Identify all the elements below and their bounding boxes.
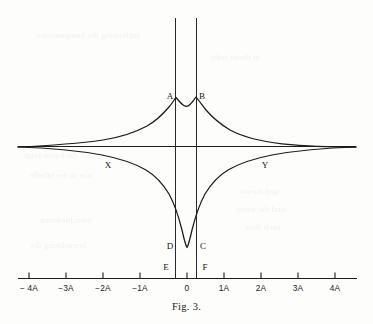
tick-label-3A: 3A bbox=[293, 283, 304, 293]
tick-label-0: 0 bbox=[185, 283, 190, 293]
lower-curve bbox=[18, 147, 356, 248]
tick-label-2A: 2A bbox=[256, 283, 267, 293]
point-label-Y: Y bbox=[262, 160, 269, 170]
point-label-A: A bbox=[167, 91, 174, 101]
tick-label--2A: −2A bbox=[95, 283, 111, 293]
upper-curve bbox=[18, 97, 356, 147]
tick-label-1A: 1A bbox=[219, 283, 230, 293]
point-label-D: D bbox=[167, 241, 174, 251]
tick-label--3A: −3A bbox=[58, 283, 74, 293]
tick-label-4A: 4A bbox=[330, 283, 341, 293]
figure-caption: Fig. 3. bbox=[0, 301, 373, 312]
point-label-E: E bbox=[163, 262, 169, 272]
figure-3: entfernung der komponenten in dieser nah… bbox=[0, 0, 373, 324]
x-axis-ticks bbox=[29, 273, 335, 279]
tick-label--1A: −1A bbox=[132, 283, 148, 293]
point-label-B: B bbox=[199, 91, 205, 101]
point-label-X: X bbox=[105, 160, 112, 170]
curve-point-labels: A B C D E F X Y bbox=[105, 91, 269, 272]
point-label-C: C bbox=[200, 241, 206, 251]
x-axis-tick-labels: − 4A −3A −2A −1A 0 1A 2A 3A 4A bbox=[20, 283, 341, 293]
point-label-F: F bbox=[202, 262, 207, 272]
tick-label--4A: − 4A bbox=[20, 283, 38, 293]
figure-plot-area: − 4A −3A −2A −1A 0 1A 2A 3A 4A A B C D E… bbox=[0, 0, 373, 324]
